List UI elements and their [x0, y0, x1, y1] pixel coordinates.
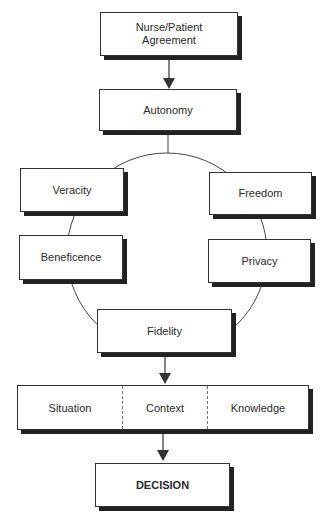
arrow-down-icon	[163, 78, 175, 89]
node-label: DECISION	[136, 479, 189, 492]
node-label: Freedom	[238, 187, 282, 200]
node-label: Nurse/Patient Agreement	[129, 21, 209, 47]
factor-knowledge: Knowledge	[207, 386, 308, 429]
arrow-down-icon	[159, 373, 171, 384]
node-label: Privacy	[241, 255, 277, 268]
node-decision: DECISION	[95, 463, 230, 507]
node-label: Autonomy	[143, 104, 193, 117]
node-fidelity: Fidelity	[97, 309, 232, 353]
factor-context: Context	[122, 386, 207, 429]
node-label: Beneficence	[41, 251, 102, 264]
arrow-down-icon	[157, 450, 169, 461]
factors-row: Situation Context Knowledge	[17, 385, 309, 430]
factor-situation: Situation	[18, 386, 122, 429]
node-label: Fidelity	[147, 325, 182, 338]
node-beneficence: Beneficence	[19, 235, 123, 280]
node-label: Veracity	[52, 184, 91, 197]
node-freedom: Freedom	[209, 172, 312, 215]
node-autonomy: Autonomy	[99, 89, 237, 131]
node-privacy: Privacy	[208, 239, 311, 283]
node-veracity: Veracity	[20, 168, 124, 212]
node-nurse-patient-agreement: Nurse/Patient Agreement	[100, 12, 238, 56]
